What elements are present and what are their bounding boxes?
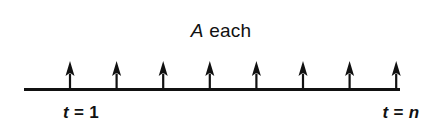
cash-flow-arrow <box>392 61 401 89</box>
cash-flow-arrow-shaft <box>116 74 118 89</box>
cash-flow-arrow-head <box>299 61 308 76</box>
cash-flow-arrow <box>299 61 308 89</box>
cash-flow-arrow-head <box>392 61 401 76</box>
cash-flow-arrow-head <box>159 61 168 76</box>
cash-flow-arrow-group <box>66 61 401 89</box>
period-start-equals: = <box>74 103 84 122</box>
annuity-suffix-text: each <box>209 20 251 41</box>
cash-flow-arrow <box>159 61 168 89</box>
cash-flow-arrow <box>66 61 75 89</box>
cash-flow-arrow <box>252 61 261 89</box>
period-end-value: n <box>409 103 420 122</box>
cash-flow-arrow-shaft <box>349 74 351 89</box>
period-end-equals: = <box>394 103 404 122</box>
cash-flow-arrow <box>205 61 214 89</box>
cash-flow-arrow-shaft <box>302 74 304 89</box>
annuity-amount-label: A each <box>0 21 442 40</box>
cash-flow-arrow-head <box>66 61 75 76</box>
cash-flow-arrow-head <box>205 61 214 76</box>
period-end-label: t = n <box>383 104 420 121</box>
cash-flow-arrow-shaft <box>255 74 257 89</box>
cash-flow-arrow-shaft <box>209 74 211 89</box>
period-start-label: t = 1 <box>63 104 99 121</box>
cash-flow-arrow-head <box>345 61 354 76</box>
cash-flow-arrow-shaft <box>69 74 71 89</box>
cash-flow-arrow-head <box>112 61 121 76</box>
annuity-cash-flow-figure: A each t = 1 t = n <box>0 0 442 133</box>
cash-flow-arrow-head <box>252 61 261 76</box>
cash-flow-arrow-shaft <box>162 74 164 89</box>
annuity-symbol: A <box>191 20 204 41</box>
cash-flow-arrow <box>112 61 121 89</box>
period-start-value: 1 <box>89 103 99 122</box>
cash-flow-arrow <box>345 61 354 89</box>
cash-flow-arrow-shaft <box>395 74 397 89</box>
